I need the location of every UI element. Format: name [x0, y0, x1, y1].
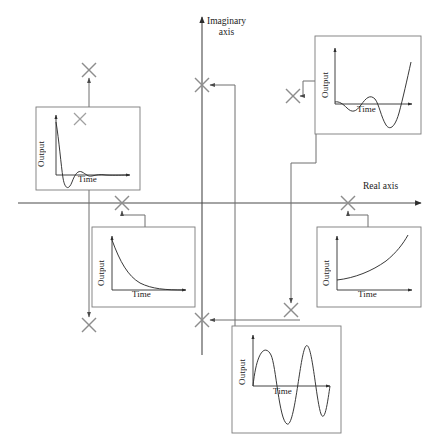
- connector-lower-right-pole: [291, 134, 316, 303]
- real-axis-label: Real axis: [363, 181, 398, 192]
- connector-upper-imaginary-pole: [210, 85, 235, 326]
- panel-growth-ylabel: Output: [321, 240, 333, 286]
- s-plane-diagram: Imaginary axis Real axis Output Time Out…: [0, 0, 435, 446]
- panel-decay-xlabel: Time: [132, 289, 151, 299]
- panel-damped-ylabel: Output: [36, 121, 48, 167]
- imaginary-axis-label: Imaginary axis: [207, 16, 246, 38]
- panel-growth-xlabel: Time: [358, 289, 377, 299]
- panel-damped-xlabel: Time: [78, 174, 97, 184]
- pole-lower-left-complex[interactable]: [82, 318, 96, 332]
- pole-upper-left-complex[interactable]: [82, 63, 96, 77]
- imaginary-axis-label-line1: Imaginary: [207, 16, 246, 27]
- imaginary-axis-label-line2: axis: [207, 27, 246, 38]
- panel-growing-ylabel: Output: [320, 52, 332, 98]
- pole-upper-right-complex[interactable]: [286, 89, 300, 103]
- pole-lower-right-complex[interactable]: [284, 303, 298, 317]
- panel-sine-xlabel: Time: [273, 386, 292, 396]
- connector-positive-real-pole: [348, 211, 368, 227]
- diagram-canvas: [0, 0, 435, 446]
- panel-decay-ylabel: Output: [96, 240, 108, 286]
- connector-negative-real-pole: [122, 211, 145, 227]
- panel-sine-ylabel: Output: [237, 339, 249, 385]
- panel-growing-xlabel: Time: [357, 104, 376, 114]
- connector-upper-right-pole: [300, 81, 315, 96]
